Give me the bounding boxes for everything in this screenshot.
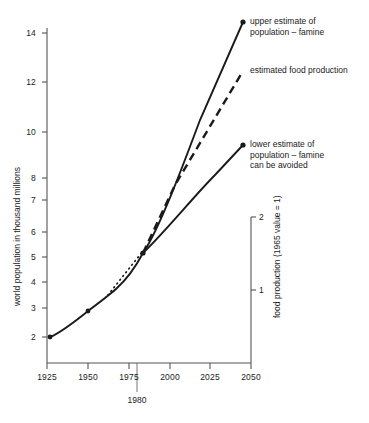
- xtick-label-1925: 1925: [27, 372, 67, 382]
- data-point-1960: [86, 309, 91, 314]
- ytick-label-14: 14: [14, 28, 36, 38]
- series-dotted-extrapolation: [108, 251, 143, 295]
- endpoint-upper-estimate: [240, 19, 245, 24]
- xtick-label-2050: 2050: [231, 372, 271, 382]
- y2-axis-title: food production (1965 value = 1): [272, 208, 282, 318]
- data-point-1930: [48, 335, 53, 340]
- ytick-label-10: 10: [14, 127, 36, 137]
- y-axis-title: world population in thousand millions: [12, 167, 22, 306]
- series-upper-estimate: [143, 22, 243, 253]
- y-axis-ticks: [42, 33, 47, 337]
- endpoint-lower-estimate: [240, 142, 245, 147]
- annotation-estimated-food-production: estimated food production: [250, 65, 348, 76]
- y2-axis-title-text: food production (1965 value = 1): [272, 195, 282, 318]
- chart-plot-area: [0, 0, 369, 423]
- data-point-branch-1985: [140, 250, 145, 255]
- highlight-year-label-1980: 1980: [117, 395, 157, 405]
- xtick-label-2000: 2000: [150, 372, 190, 382]
- xtick-label-1950: 1950: [68, 372, 108, 382]
- series-lower-estimate: [143, 145, 243, 253]
- x-axis-ticks: [47, 363, 251, 369]
- ytick-label-12: 12: [14, 77, 36, 87]
- y2-axis-ticks: [251, 217, 256, 290]
- annotation-upper-estimate: upper estimate of population – famine: [250, 16, 324, 37]
- annotation-lower-estimate: lower estimate of population – famine ca…: [250, 139, 324, 171]
- ytick-label-2: 2: [14, 332, 36, 342]
- series-historical-population: [50, 253, 143, 337]
- chart-figure: 14 12 10 8 7 6 5 4 3 2 1925 1950 1975 20…: [0, 0, 369, 423]
- xtick-label-1975: 1975: [109, 372, 149, 382]
- xtick-label-2025: 2025: [190, 372, 230, 382]
